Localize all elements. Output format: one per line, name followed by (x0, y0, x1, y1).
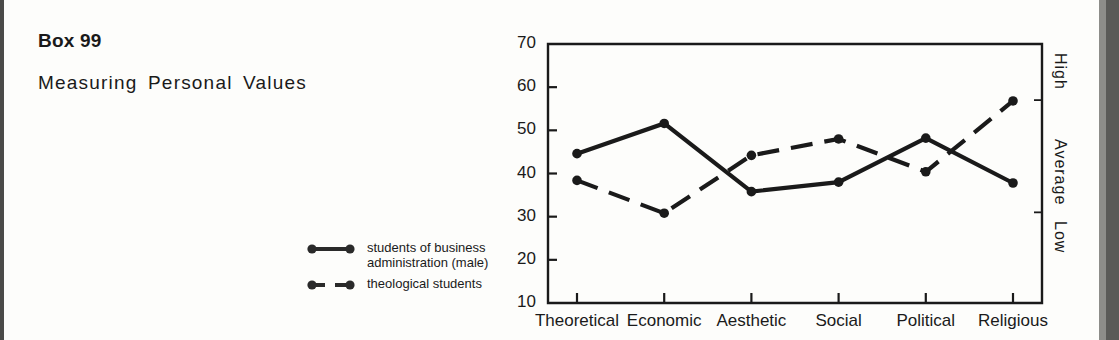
y-axis-tick-label: 60 (492, 76, 536, 96)
data-point (747, 187, 757, 197)
line-chart: 10203040506070 TheoreticalEconomicAesthe… (0, 0, 1119, 340)
y-axis-tick-label: 50 (492, 119, 536, 139)
data-point (1008, 96, 1018, 106)
data-point (1008, 178, 1018, 188)
plot-frame (548, 44, 1042, 303)
right-axis-label: High (1051, 53, 1069, 90)
y-axis-tick-label: 40 (492, 163, 536, 183)
data-point (572, 176, 582, 186)
data-point (921, 167, 931, 177)
chart-canvas (0, 0, 1119, 340)
right-axis-label: Average (1051, 139, 1069, 205)
y-axis-tick-label: 10 (492, 292, 536, 312)
data-point (572, 149, 582, 159)
data-point (921, 133, 931, 143)
data-point (659, 208, 669, 218)
right-axis-label: Low (1051, 221, 1069, 253)
data-point (747, 151, 757, 161)
data-point (659, 119, 669, 129)
y-axis-tick-label: 20 (492, 249, 536, 269)
data-point (834, 134, 844, 144)
page-root: Box 99 Measuring Personal Values student… (0, 0, 1119, 340)
series-line-1 (577, 123, 1013, 191)
data-point (834, 177, 844, 187)
series-line-2 (577, 101, 1013, 213)
y-axis-tick-label: 70 (492, 33, 536, 53)
x-axis-tick-label: Religious (913, 311, 1113, 331)
y-axis-tick-label: 30 (492, 206, 536, 226)
